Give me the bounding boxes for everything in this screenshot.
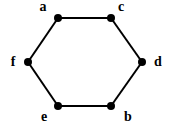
node-label-b: b bbox=[124, 109, 132, 124]
edge-f-a bbox=[28, 18, 58, 62]
node-label-e: e bbox=[41, 109, 47, 124]
edge-c-d bbox=[111, 18, 142, 62]
node-label-a: a bbox=[40, 0, 47, 14]
edge-d-b bbox=[111, 62, 142, 106]
node-a bbox=[54, 14, 62, 22]
node-label-c: c bbox=[118, 0, 124, 14]
nodes-group bbox=[24, 14, 146, 110]
hexagon-graph: acdbef bbox=[0, 0, 169, 127]
node-b bbox=[107, 102, 115, 110]
node-label-f: f bbox=[11, 54, 16, 69]
edges-group bbox=[28, 18, 142, 106]
edge-e-f bbox=[28, 62, 58, 106]
node-f bbox=[24, 58, 32, 66]
node-label-d: d bbox=[154, 54, 162, 69]
node-c bbox=[107, 14, 115, 22]
node-d bbox=[138, 58, 146, 66]
node-e bbox=[54, 102, 62, 110]
